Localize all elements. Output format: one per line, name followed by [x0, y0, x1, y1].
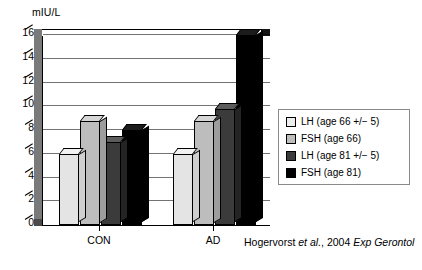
x-tick-mark-ad: [213, 226, 214, 231]
legend-swatch-fsh-81: [286, 168, 296, 178]
y-tick-label-6: 6: [4, 145, 34, 157]
bar-top: [122, 124, 147, 130]
y-tick-label-16: 16: [4, 26, 34, 38]
bar-side: [214, 116, 221, 222]
citation-journal: Exp Gerontol: [353, 236, 414, 248]
y-tick-label-2: 2: [4, 192, 34, 204]
bar-top: [59, 148, 84, 154]
legend-label-3: FSH (age 81): [301, 168, 361, 178]
bar-side: [79, 149, 86, 222]
bar-side: [193, 149, 200, 222]
citation-author: Hogervorst: [244, 236, 298, 248]
bar-top: [80, 115, 105, 121]
legend-label-1: FSH (age 66): [301, 134, 361, 144]
bar-top: [173, 148, 198, 154]
y-tick-label-0: 0: [4, 216, 34, 228]
bar-top: [236, 29, 261, 35]
legend-item-0[interactable]: LH (age 66 +/− 5): [286, 115, 403, 128]
citation-year: , 2004: [321, 236, 353, 248]
y-tick-label-8: 8: [4, 121, 34, 133]
legend-swatch-lh-66: [286, 117, 296, 127]
bar-side: [142, 126, 149, 222]
legend-item-3[interactable]: FSH (age 81): [286, 166, 403, 179]
y-axis-title: mIU/L: [32, 6, 61, 18]
bar-side: [100, 116, 107, 222]
plot-area: [42, 36, 270, 226]
bar-ad-series-0: [173, 154, 193, 225]
bar-top: [215, 103, 240, 109]
y-tick-label-14: 14: [4, 50, 34, 62]
bar-group-ad: [157, 36, 271, 225]
chart-legend: LH (age 66 +/− 5)FSH (age 66)LH (age 81 …: [278, 109, 410, 185]
y-axis: 0246810121416: [0, 29, 34, 219]
bar-face: [59, 154, 79, 225]
legend-item-2[interactable]: LH (age 81 +/− 5): [286, 149, 403, 162]
bar-face: [173, 154, 193, 225]
citation-etal: et al.: [298, 236, 321, 248]
x-tick-mark-con: [99, 226, 100, 231]
legend-item-1[interactable]: FSH (age 66): [286, 132, 403, 145]
x-axis-label-ad: AD: [206, 234, 221, 246]
y-tick-label-10: 10: [4, 97, 34, 109]
plot-left-wall: [34, 29, 42, 219]
y-tick-label-4: 4: [4, 169, 34, 181]
bar-group-con: [43, 36, 157, 225]
bar-side: [121, 138, 128, 222]
legend-swatch-lh-81: [286, 151, 296, 161]
legend-swatch-fsh-66: [286, 134, 296, 144]
legend-label-2: LH (age 81 +/− 5): [301, 151, 379, 161]
legend-label-0: LH (age 66 +/− 5): [301, 117, 379, 127]
bar-side: [235, 104, 242, 222]
citation-text: Hogervorst et al., 2004 Exp Gerontol: [244, 236, 414, 248]
bar-con-series-0: [59, 154, 79, 225]
x-axis-label-con: CON: [87, 234, 110, 246]
bar-side: [256, 31, 263, 222]
bar-series-container: [43, 36, 270, 225]
bar-chart: mIU/L 0246810121416 CONAD LH (age 66 +/−…: [0, 0, 422, 270]
bar-top: [194, 115, 219, 121]
y-tick-label-12: 12: [4, 74, 34, 86]
